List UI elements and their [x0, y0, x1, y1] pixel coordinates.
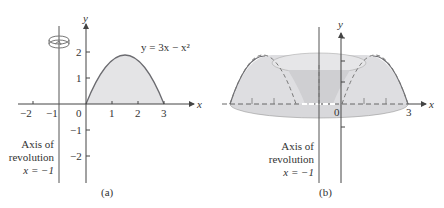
- axis-label-line1: Axis of: [21, 138, 54, 150]
- x-tick-label: −2: [20, 107, 32, 119]
- x-tick-label: 2: [135, 107, 141, 119]
- curve-label: y = 3x − x²: [141, 41, 190, 53]
- axis-label-line1: Axis of: [281, 140, 314, 152]
- y-tick-label: 1: [76, 72, 82, 84]
- x-tick-label: −1: [46, 107, 58, 119]
- y-axis-label: y: [337, 18, 343, 30]
- y-axis-label: y: [82, 12, 88, 24]
- x-axis-label: x: [196, 98, 202, 110]
- axis-label-line2: revolution: [269, 153, 315, 165]
- origin-label: 0: [334, 106, 340, 118]
- x-axis-label: x: [428, 98, 434, 110]
- axis-label-line2: revolution: [9, 151, 55, 163]
- x-tick-label: 0: [76, 107, 82, 119]
- y-tick-label: 2: [76, 46, 82, 58]
- caption-b: (b): [319, 186, 332, 199]
- axis-label-line3: x = −1: [282, 166, 314, 178]
- panel-a: y x y = 3x − x² −2 −1 0 1 2 3 2 1 −1 −2 …: [9, 12, 202, 199]
- y-tick-label: −2: [70, 150, 82, 162]
- figure: y x y = 3x − x² −2 −1 0 1 2 3 2 1 −1 −2 …: [0, 0, 444, 208]
- x-tick-label: 1: [109, 107, 115, 119]
- panel-b: y x 0 3 Axis of revolution x = −1 (b): [222, 18, 434, 199]
- axis-label-line3: x = −1: [22, 164, 54, 176]
- y-tick-label: −1: [70, 124, 82, 136]
- x-tick-label: 3: [161, 107, 167, 119]
- caption-a: (a): [101, 186, 114, 199]
- x-end-label: 3: [406, 106, 412, 118]
